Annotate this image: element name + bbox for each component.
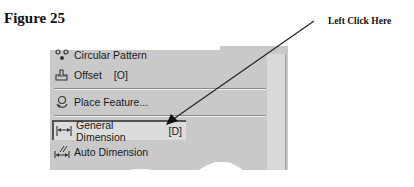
menu-item-label: Offset xyxy=(74,69,102,81)
menu-item-label: Circular Pattern xyxy=(74,49,147,61)
menu-right-border xyxy=(267,54,286,170)
menu-item-circular-pattern[interactable]: Circular Pattern xyxy=(52,46,266,64)
general-dimension-icon xyxy=(56,124,72,138)
menu-item-offset[interactable]: Offset [O] xyxy=(52,66,266,84)
menu-separator xyxy=(54,88,266,90)
shortcut-key: [O] xyxy=(114,69,128,81)
menu-item-label: General Dimension xyxy=(76,119,157,143)
menu-item-label: Auto Dimension xyxy=(74,146,148,158)
figure-title: Figure 25 xyxy=(4,10,65,27)
menu-item-label: Place Feature... xyxy=(74,96,148,108)
callout-label: Left Click Here xyxy=(328,16,391,26)
menu-item-auto-dimension[interactable]: Auto Dimension xyxy=(52,143,266,161)
auto-dimension-icon xyxy=(54,145,70,159)
offset-icon xyxy=(54,68,70,82)
context-menu: Circular Pattern Offset [O] Place Featur… xyxy=(50,46,288,170)
place-feature-icon xyxy=(54,95,70,109)
torn-edge xyxy=(44,162,304,187)
menu-item-place-feature[interactable]: Place Feature... xyxy=(52,93,266,111)
circular-pattern-icon xyxy=(54,48,70,62)
shortcut-key: [D] xyxy=(169,125,182,137)
menu-separator xyxy=(54,115,266,117)
menu-item-general-dimension[interactable]: General Dimension [D] xyxy=(52,120,186,140)
